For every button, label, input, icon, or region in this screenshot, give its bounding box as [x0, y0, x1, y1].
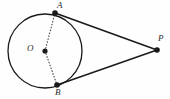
segment-oa-radius: [45, 13, 55, 51]
point-p-dot: [154, 47, 160, 53]
point-p-label: P: [158, 34, 164, 43]
segment-bp-tangent: [57, 50, 157, 85]
point-a-label: A: [57, 1, 63, 10]
segment-ob-radius: [45, 51, 57, 85]
geometry-canvas: [0, 0, 170, 99]
point-b-label: B: [55, 88, 61, 97]
geometry-figure: O A B P: [0, 0, 170, 99]
point-o-dot: [42, 48, 47, 53]
segment-ap-tangent: [55, 13, 157, 50]
point-o-label: O: [27, 44, 34, 53]
point-a-dot: [52, 10, 58, 16]
